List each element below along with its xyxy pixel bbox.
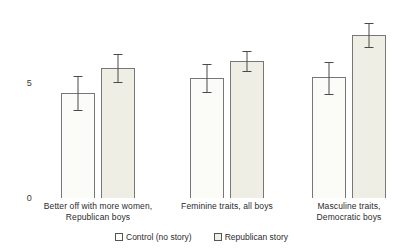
- error-bar-stem: [118, 54, 119, 83]
- error-bar-cap-bottom: [203, 92, 212, 93]
- bar-group3-story: [352, 35, 386, 198]
- legend-label-control: Control (no story): [126, 232, 192, 242]
- error-bar-stem: [78, 76, 79, 111]
- legend-item-control: Control (no story): [115, 232, 192, 242]
- error-bar-group2-control: [203, 64, 212, 93]
- error-bar-group1-control: [74, 76, 83, 111]
- bar-group3-control: [312, 77, 346, 198]
- y-axis-tick-5: 5: [6, 78, 32, 88]
- error-bar-cap-bottom: [325, 94, 334, 95]
- error-bar-stem: [369, 23, 370, 48]
- story-swatch-icon: [214, 233, 222, 241]
- plot-area: 5 0: [0, 0, 403, 252]
- bar-group1-story: [101, 68, 135, 198]
- error-bar-cap-bottom: [74, 110, 83, 111]
- error-bar-stem: [247, 51, 248, 72]
- bar-group2-story: [230, 61, 264, 198]
- error-bar-group3-control: [325, 62, 334, 95]
- error-bar-stem: [207, 64, 208, 93]
- chart-legend: Control (no story) Republican story: [0, 232, 403, 242]
- x-axis-label-group2-line1: Feminine traits, all boys: [157, 201, 297, 212]
- x-axis-label-group1: Better off with more women, Republican b…: [28, 201, 168, 223]
- control-swatch-icon: [115, 233, 123, 241]
- error-bar-cap-bottom: [365, 47, 374, 48]
- bar-group2-control: [190, 78, 224, 198]
- error-bar-cap-top: [74, 76, 83, 77]
- error-bar-cap-top: [243, 51, 252, 52]
- error-bar-group2-story: [243, 51, 252, 72]
- x-axis-label-group3: Masculine traits, Democratic boys: [279, 201, 403, 223]
- error-bar-cap-top: [365, 23, 374, 24]
- error-bar-cap-top: [325, 62, 334, 63]
- bar-chart: 5 0: [0, 0, 403, 252]
- x-axis-label-group1-line2: Republican boys: [28, 212, 168, 223]
- error-bar-cap-bottom: [114, 82, 123, 83]
- legend-label-story: Republican story: [225, 232, 288, 242]
- error-bar-cap-top: [114, 54, 123, 55]
- error-bar-cap-top: [203, 64, 212, 65]
- x-axis-label-group3-line1: Masculine traits,: [279, 201, 403, 212]
- error-bar-group1-story: [114, 54, 123, 83]
- error-bar-stem: [329, 62, 330, 95]
- legend-item-story: Republican story: [214, 232, 288, 242]
- error-bar-cap-bottom: [243, 71, 252, 72]
- x-axis-label-group1-line1: Better off with more women,: [28, 201, 168, 212]
- x-axis-label-group2: Feminine traits, all boys: [157, 201, 297, 212]
- error-bar-group3-story: [365, 23, 374, 48]
- x-axis-label-group3-line2: Democratic boys: [279, 212, 403, 223]
